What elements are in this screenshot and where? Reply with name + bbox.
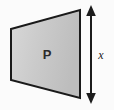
- arrow-head-up-icon: [86, 5, 96, 16]
- dimension-arrow: [86, 5, 96, 104]
- figure-canvas: P x: [0, 0, 114, 110]
- arrow-head-down-icon: [86, 93, 96, 104]
- dimension-label-x: x: [97, 48, 104, 62]
- geometry-figure: P x: [0, 0, 114, 110]
- shape-label-p: P: [43, 47, 52, 62]
